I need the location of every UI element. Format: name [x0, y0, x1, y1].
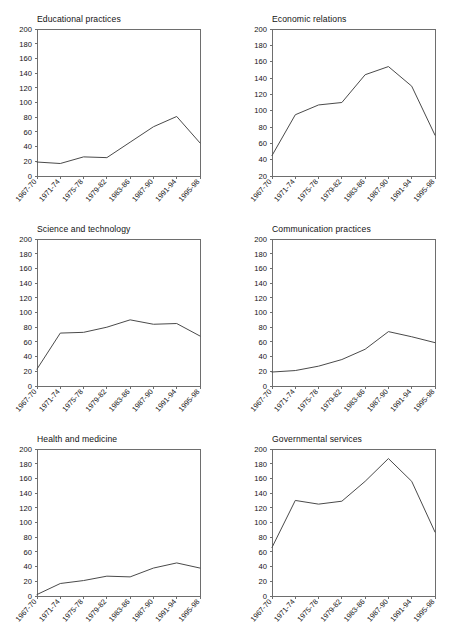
chart-panel: Health and medicine020406080100120140160…	[0, 434, 218, 639]
y-axis-tick-label: 60	[24, 548, 32, 557]
y-axis-tick-label: 120	[254, 294, 267, 303]
y-axis-tick-label: 20	[24, 367, 32, 376]
x-axis-tick-label: 1967-70	[249, 597, 274, 623]
x-axis-tick-label: 1971-74	[37, 597, 62, 623]
x-axis-tick-label: 1991-94	[153, 387, 178, 413]
chart-panel: Science and technology020406080100120140…	[0, 224, 218, 434]
x-axis-tick-label: 1987-90	[130, 597, 155, 623]
y-axis-tick-label: 200	[19, 25, 32, 34]
chart-plot-area: 0204060801001201401601802001967-701971-7…	[0, 434, 218, 639]
y-axis-tick-label: 80	[259, 533, 267, 542]
y-axis-tick-label: 200	[19, 445, 32, 454]
y-axis-tick-label: 100	[254, 106, 267, 115]
y-axis-tick-label: 140	[254, 279, 267, 288]
x-axis-tick-label: 1971-74	[272, 597, 297, 623]
chart-panel: Governmental services0204060801001201401…	[235, 434, 453, 639]
x-axis-tick-label: 1995-98	[412, 387, 437, 413]
chart-plot-area: 0204060801001201401601802001967-701971-7…	[235, 434, 453, 639]
y-axis-tick-label: 120	[254, 504, 267, 513]
y-axis-tick-label: 100	[254, 308, 267, 317]
y-axis-tick-label: 100	[254, 518, 267, 527]
x-axis-tick-label: 1971-74	[37, 177, 62, 203]
y-axis-tick-label: 80	[24, 323, 32, 332]
x-axis-tick-label: 1991-94	[153, 597, 178, 623]
y-axis-tick-label: 160	[254, 474, 267, 483]
x-axis-tick-label: 1995-98	[177, 177, 202, 203]
x-axis-tick-label: 1975-78	[295, 387, 320, 413]
y-axis-tick-label: 40	[24, 352, 32, 361]
y-axis-tick-label: 80	[259, 123, 267, 132]
x-axis-tick-label: 1979-82	[319, 387, 344, 413]
x-axis-tick-label: 1995-98	[177, 387, 202, 413]
data-series-line	[272, 332, 435, 372]
y-axis-tick-label: 60	[259, 338, 267, 347]
y-axis-tick-label: 160	[254, 57, 267, 66]
y-axis-tick-label: 20	[259, 577, 267, 586]
x-axis-tick-label: 1987-90	[130, 177, 155, 203]
y-axis-tick-label: 40	[259, 352, 267, 361]
x-axis-tick-label: 1979-82	[84, 177, 109, 203]
x-axis-tick-label: 1991-94	[388, 597, 413, 623]
x-axis-tick-label: 1991-94	[388, 387, 413, 413]
x-axis-tick-label: 1987-90	[365, 177, 390, 203]
chart-panel: Communication practices02040608010012014…	[235, 224, 453, 434]
x-axis-tick-label: 1967-70	[14, 177, 39, 203]
y-axis-tick-label: 200	[19, 235, 32, 244]
x-axis-tick-label: 1991-94	[153, 177, 178, 203]
x-axis-tick-label: 1983-86	[107, 177, 132, 203]
y-axis-tick-label: 40	[24, 142, 32, 151]
y-axis-tick-label: 160	[254, 264, 267, 273]
y-axis-tick-label: 160	[19, 474, 32, 483]
y-axis-tick-label: 200	[254, 445, 267, 454]
x-axis-tick-label: 1979-82	[84, 387, 109, 413]
y-axis-tick-label: 160	[19, 264, 32, 273]
y-axis-tick-label: 140	[254, 74, 267, 83]
x-axis-tick-label: 1979-82	[319, 177, 344, 203]
y-axis-tick-label: 120	[19, 504, 32, 513]
y-axis-tick-label: 60	[259, 139, 267, 148]
y-axis-tick-label: 180	[19, 460, 32, 469]
y-axis-tick-label: 120	[254, 90, 267, 99]
x-axis-tick-label: 1983-86	[342, 387, 367, 413]
x-axis-tick-label: 1979-82	[319, 597, 344, 623]
x-axis-tick-label: 1967-70	[14, 387, 39, 413]
x-axis-tick-label: 1967-70	[249, 387, 274, 413]
data-series-line	[37, 563, 200, 595]
x-axis-tick-label: 1967-70	[14, 597, 39, 623]
y-axis-tick-label: 140	[19, 69, 32, 78]
chart-plot-area: 0204060801001201401601802001967-701971-7…	[0, 224, 218, 434]
y-axis-tick-label: 120	[19, 84, 32, 93]
x-axis-tick-label: 1983-86	[107, 387, 132, 413]
x-axis-tick-label: 1987-90	[130, 387, 155, 413]
y-axis-tick-label: 40	[259, 155, 267, 164]
y-axis-tick-label: 180	[254, 41, 267, 50]
data-series-line	[37, 320, 200, 369]
x-axis-tick-label: 1983-86	[342, 177, 367, 203]
y-axis-tick-label: 40	[259, 562, 267, 571]
y-axis-tick-label: 180	[254, 250, 267, 259]
x-axis-tick-label: 1971-74	[272, 387, 297, 413]
x-axis-tick-label: 1975-78	[60, 387, 85, 413]
y-axis-tick-label: 180	[19, 40, 32, 49]
y-axis-tick-label: 100	[19, 518, 32, 527]
y-axis-tick-label: 200	[254, 25, 267, 34]
data-series-line	[272, 67, 435, 156]
y-axis-tick-label: 80	[259, 323, 267, 332]
x-axis-tick-label: 1979-82	[84, 597, 109, 623]
chart-panel-grid: Educational practices0204060801001201401…	[0, 0, 453, 639]
data-series-line	[272, 459, 435, 548]
y-axis-tick-label: 140	[19, 489, 32, 498]
y-axis-tick-label: 60	[24, 338, 32, 347]
y-axis-tick-label: 80	[24, 113, 32, 122]
x-axis-tick-label: 1971-74	[37, 387, 62, 413]
x-axis-tick-label: 1975-78	[60, 597, 85, 623]
y-axis-tick-label: 180	[19, 250, 32, 259]
y-axis-tick-label: 20	[24, 577, 32, 586]
x-axis-tick-label: 1995-98	[177, 597, 202, 623]
chart-plot-area: 0204060801001201401601802001967-701971-7…	[0, 14, 218, 224]
y-axis-tick-label: 100	[19, 308, 32, 317]
x-axis-tick-label: 1983-86	[107, 597, 132, 623]
y-axis-tick-label: 140	[19, 279, 32, 288]
x-axis-tick-label: 1975-78	[60, 177, 85, 203]
x-axis-tick-label: 1971-74	[272, 177, 297, 203]
